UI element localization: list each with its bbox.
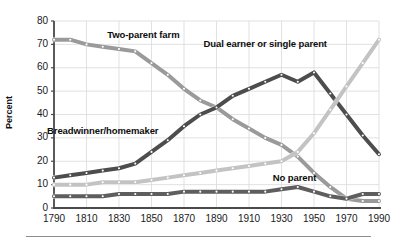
data-point-marker — [264, 191, 266, 193]
data-point-marker — [85, 172, 87, 174]
data-point-marker — [362, 193, 364, 195]
data-point-marker — [362, 62, 364, 64]
series-annotation-label: Dual earner or single parent — [204, 38, 327, 49]
x-tick-label: 1990 — [368, 213, 390, 224]
data-point-marker — [85, 184, 87, 186]
data-point-marker — [248, 127, 250, 129]
x-tick-label: 1790 — [43, 213, 65, 224]
data-point-marker — [53, 195, 55, 197]
data-point-marker — [297, 151, 299, 153]
x-tick-label: 1930 — [270, 213, 292, 224]
data-point-marker — [215, 170, 217, 172]
data-point-marker — [167, 177, 169, 179]
data-point-marker — [215, 106, 217, 108]
data-point-marker — [85, 195, 87, 197]
data-point-marker — [69, 184, 71, 186]
data-point-marker — [264, 163, 266, 165]
data-point-marker — [329, 109, 331, 111]
data-point-marker — [232, 95, 234, 97]
data-point-marker — [313, 71, 315, 73]
x-tick-label: 1810 — [75, 213, 97, 224]
data-point-marker — [248, 165, 250, 167]
data-point-marker — [53, 184, 55, 186]
data-point-marker — [118, 48, 120, 50]
data-point-marker — [134, 181, 136, 183]
data-point-marker — [297, 186, 299, 188]
data-point-marker — [215, 191, 217, 193]
data-point-marker — [345, 198, 347, 200]
data-point-marker — [232, 191, 234, 193]
data-point-marker — [53, 177, 55, 179]
series-annotation-label: No parent — [273, 172, 316, 183]
data-point-marker — [264, 137, 266, 139]
data-point-marker — [183, 88, 185, 90]
data-point-marker — [102, 181, 104, 183]
data-point-marker — [199, 113, 201, 115]
data-point-marker — [199, 191, 201, 193]
data-point-marker — [150, 179, 152, 181]
data-point-marker — [378, 153, 380, 155]
data-point-marker — [264, 81, 266, 83]
data-point-marker — [102, 46, 104, 48]
data-point-marker — [378, 193, 380, 195]
data-point-marker — [199, 99, 201, 101]
data-point-marker — [53, 39, 55, 41]
x-tick-label: 1970 — [335, 213, 357, 224]
data-point-marker — [85, 43, 87, 45]
data-point-marker — [102, 170, 104, 172]
chart-plot-area — [0, 0, 397, 245]
chart-figure: Percent010203040506070801790181018301850… — [0, 0, 397, 245]
data-point-marker — [183, 191, 185, 193]
data-point-marker — [362, 134, 364, 136]
data-point-marker — [345, 113, 347, 115]
data-point-marker — [313, 191, 315, 193]
y-tick-label: 60 — [26, 61, 48, 72]
data-point-marker — [297, 81, 299, 83]
data-point-marker — [167, 74, 169, 76]
data-point-marker — [167, 139, 169, 141]
data-point-marker — [329, 186, 331, 188]
data-point-marker — [313, 132, 315, 134]
data-point-marker — [248, 88, 250, 90]
x-tick-label: 1910 — [238, 213, 260, 224]
data-point-marker — [150, 151, 152, 153]
data-point-marker — [183, 125, 185, 127]
footer-divider — [26, 236, 371, 237]
data-point-marker — [118, 167, 120, 169]
x-tick-label: 1870 — [173, 213, 195, 224]
y-tick-label: 20 — [26, 155, 48, 166]
data-point-marker — [378, 200, 380, 202]
data-point-marker — [232, 118, 234, 120]
data-point-marker — [102, 195, 104, 197]
y-tick-label: 70 — [26, 38, 48, 49]
data-point-marker — [69, 39, 71, 41]
y-tick-label: 50 — [26, 85, 48, 96]
data-point-marker — [362, 200, 364, 202]
data-point-marker — [280, 160, 282, 162]
data-point-marker — [150, 193, 152, 195]
series-annotation-label: Breadwinner/homemaker — [47, 125, 158, 136]
data-point-marker — [118, 181, 120, 183]
data-point-marker — [69, 195, 71, 197]
data-point-marker — [297, 156, 299, 158]
data-point-marker — [167, 193, 169, 195]
data-point-marker — [378, 39, 380, 41]
y-axis-title: Percent — [2, 72, 16, 152]
data-point-marker — [199, 172, 201, 174]
data-point-marker — [280, 188, 282, 190]
data-point-marker — [134, 163, 136, 165]
x-tick-label: 1950 — [303, 213, 325, 224]
y-tick-label: 30 — [26, 131, 48, 142]
y-tick-label: 80 — [26, 15, 48, 26]
data-point-marker — [150, 62, 152, 64]
data-point-marker — [329, 195, 331, 197]
y-tick-label: 40 — [26, 108, 48, 119]
data-point-marker — [280, 144, 282, 146]
data-point-marker — [280, 74, 282, 76]
y-tick-label: 10 — [26, 178, 48, 189]
data-point-marker — [329, 92, 331, 94]
data-point-marker — [118, 193, 120, 195]
y-tick-label: 0 — [26, 202, 48, 213]
x-tick-label: 1830 — [108, 213, 130, 224]
data-point-marker — [183, 174, 185, 176]
